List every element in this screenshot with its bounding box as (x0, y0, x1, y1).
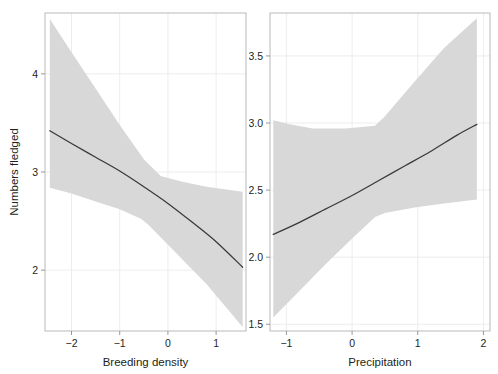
x-tick-label: 1 (213, 337, 219, 349)
y-tick-label: 2.5 (249, 184, 263, 196)
x-tick-label: −1 (114, 337, 126, 349)
y-axis-title: Numbers fledged (8, 128, 20, 216)
x-tick-label: −2 (66, 337, 78, 349)
y-tick-label: 3.5 (249, 50, 263, 62)
regression-figure: −2−101234Breeding densityNumbers fledged… (0, 0, 498, 374)
panel-precipitation: −10121.52.02.53.03.5Precipitation (249, 0, 498, 374)
y-tick-label: 3.0 (249, 117, 263, 129)
y-tick-label: 3 (32, 166, 38, 178)
y-tick-label: 4 (32, 68, 38, 80)
x-tick-label: 1 (415, 337, 421, 349)
precipitation-plot: −10121.52.02.53.03.5Precipitation (249, 0, 498, 374)
x-axis-title: Breeding density (103, 356, 189, 368)
x-tick-label: 0 (165, 337, 171, 349)
x-tick-label: 2 (481, 337, 487, 349)
x-tick-label: −1 (280, 337, 292, 349)
x-axis-title: Precipitation (348, 356, 411, 368)
y-tick-label: 1.5 (249, 318, 263, 330)
breeding-density-plot: −2−101234Breeding densityNumbers fledged (0, 0, 249, 374)
panel-breeding-density: −2−101234Breeding densityNumbers fledged (0, 0, 249, 374)
y-tick-label: 2 (32, 264, 38, 276)
x-tick-label: 0 (349, 337, 355, 349)
y-tick-label: 2.0 (249, 251, 263, 263)
